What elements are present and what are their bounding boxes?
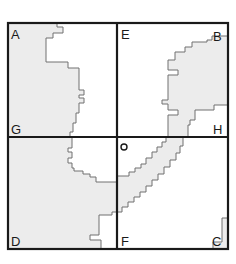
label-d: D	[11, 234, 20, 249]
shaded-region-right-band	[117, 36, 228, 212]
label-h: H	[213, 122, 222, 137]
label-g: G	[11, 122, 21, 137]
quadrant-diagram: A E B G H D F C	[0, 0, 236, 264]
label-c: C	[212, 234, 221, 249]
point-o-marker	[121, 144, 127, 150]
label-a: A	[11, 27, 20, 42]
label-e: E	[121, 27, 130, 42]
label-b: B	[213, 29, 222, 44]
label-f: F	[121, 234, 129, 249]
